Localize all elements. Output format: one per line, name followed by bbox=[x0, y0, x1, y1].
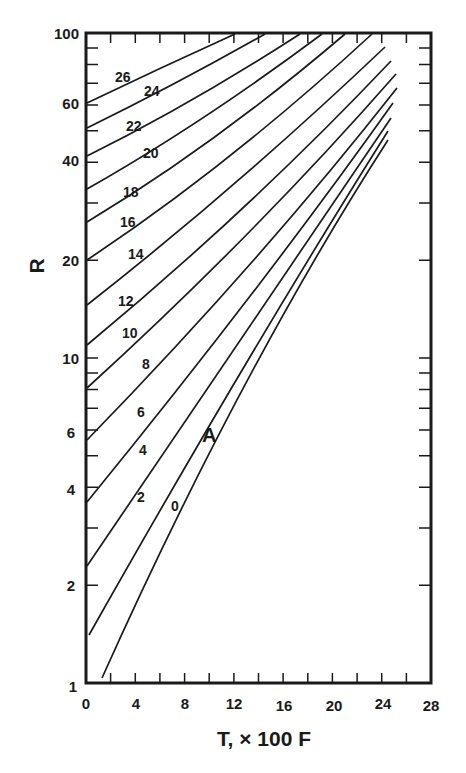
curve-label-26: 26 bbox=[115, 69, 131, 85]
svg-text:24: 24 bbox=[375, 695, 392, 712]
svg-text:20: 20 bbox=[62, 252, 79, 269]
curve-label-24: 24 bbox=[144, 83, 160, 99]
curve-8 bbox=[87, 88, 397, 440]
y-axis-title: R bbox=[25, 258, 48, 273]
svg-text:40: 40 bbox=[62, 152, 79, 169]
svg-text:20: 20 bbox=[326, 697, 343, 714]
svg-text:8: 8 bbox=[181, 695, 189, 712]
curve-26 bbox=[87, 34, 235, 103]
region-label-a: A bbox=[202, 424, 216, 446]
curve-label-8: 8 bbox=[142, 356, 150, 372]
svg-text:1: 1 bbox=[69, 678, 77, 695]
curve-label-6: 6 bbox=[137, 404, 145, 420]
svg-text:2: 2 bbox=[67, 577, 75, 594]
x-axis-title: T, × 100 F bbox=[217, 727, 311, 750]
curve-label-10: 10 bbox=[122, 325, 138, 341]
curve-label-16: 16 bbox=[120, 214, 136, 230]
y-tick-labels: 100 60 40 20 10 6 4 2 1 bbox=[54, 25, 79, 695]
svg-text:6: 6 bbox=[67, 424, 75, 441]
chart: 26 24 22 20 18 16 14 12 10 8 6 4 2 0 A 1… bbox=[0, 0, 466, 773]
curve-label-2: 2 bbox=[137, 489, 145, 505]
curve-label-14: 14 bbox=[128, 246, 144, 262]
svg-text:10: 10 bbox=[62, 350, 79, 367]
curve-label-20: 20 bbox=[143, 145, 159, 161]
curve-labels: 26 24 22 20 18 16 14 12 10 8 6 4 2 0 bbox=[115, 69, 179, 514]
curve-label-0: 0 bbox=[171, 498, 179, 514]
curve-label-22: 22 bbox=[126, 118, 142, 134]
svg-text:0: 0 bbox=[82, 695, 90, 712]
svg-text:4: 4 bbox=[132, 695, 141, 712]
svg-text:16: 16 bbox=[276, 697, 293, 714]
x-tick-labels: 0 4 8 12 16 20 24 28 bbox=[82, 695, 440, 714]
svg-text:28: 28 bbox=[423, 697, 440, 714]
svg-text:60: 60 bbox=[62, 95, 79, 112]
curve-2 bbox=[89, 131, 388, 635]
curve-label-18: 18 bbox=[123, 184, 139, 200]
curve-label-4: 4 bbox=[139, 442, 147, 458]
svg-text:12: 12 bbox=[226, 695, 243, 712]
svg-text:100: 100 bbox=[54, 25, 79, 42]
svg-text:4: 4 bbox=[67, 481, 76, 498]
curve-label-12: 12 bbox=[118, 293, 134, 309]
curve-24 bbox=[87, 34, 265, 128]
